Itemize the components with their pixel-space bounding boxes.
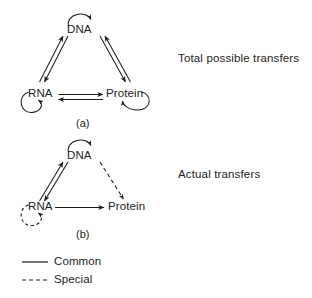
panel-a-node-dna: DNA [67,24,92,36]
panel-b-edge-rna-to-dna [40,162,64,201]
central-dogma-figure: DNA RNA Protein (a) Total possible trans… [0,0,312,298]
panel-a-node-protein: Protein [106,88,143,100]
legend-label-special: Special [54,273,92,285]
panel-a-side-note: Total possible transfers [178,52,299,64]
diagram-vector-layer [0,0,312,298]
legend-swatches [22,262,48,280]
panel-a-edge-protein-to-dna [105,36,131,82]
panel-b-caption: (b) [76,228,89,240]
legend-label-common: Common [54,255,101,267]
panel-a-edge-dna-to-protein [100,36,126,82]
panel-b-side-note: Actual transfers [178,168,260,180]
panel-b-node-dna: DNA [67,150,92,162]
panel-b-edge-dna-to-protein [100,162,124,199]
panel-b-node-rna: RNA [28,201,53,213]
panel-a-caption: (a) [76,117,89,129]
panel-b-edge-dna-to-rna [45,162,69,201]
panel-a-edge-dna-to-rna [45,36,69,82]
panel-a-node-rna: RNA [28,88,53,100]
panel-b-node-protein: Protein [108,201,145,213]
panel-a-edge-rna-to-dna [40,36,64,82]
